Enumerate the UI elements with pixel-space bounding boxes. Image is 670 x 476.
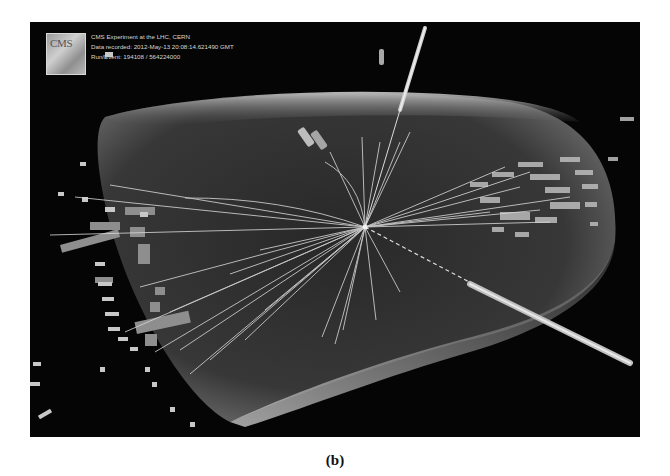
collision-vertex: [363, 225, 368, 230]
event-display-image: CMS CMS Experiment at the LHC, CERN Data…: [30, 22, 640, 437]
hit-block: [379, 49, 384, 65]
detector-visualization: [30, 22, 640, 437]
experiment-label: CMS Experiment at the LHC, CERN: [91, 32, 234, 42]
figure-caption: (b): [0, 452, 670, 469]
run-event-label: Run/Event: 194108 / 564224000: [91, 52, 234, 62]
data-recorded-label: Data recorded: 2012-May-13 20:08:14.6214…: [91, 42, 234, 52]
cms-logo-text: CMS: [50, 37, 72, 49]
event-info: CMS Experiment at the LHC, CERN Data rec…: [91, 32, 234, 62]
cms-logo: CMS: [46, 33, 86, 75]
